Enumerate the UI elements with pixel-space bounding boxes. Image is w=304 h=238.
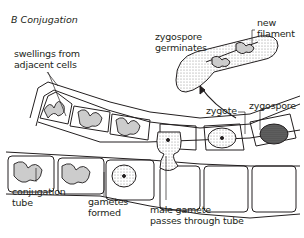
label-zygospore-germinates: zygospore germinates [155,31,207,53]
label-zygospore: zygospore [249,100,296,111]
male-gamete [157,132,181,171]
label-zygote: zygote [206,105,237,116]
label-male-gamete: male gamete passes through tube [150,204,244,226]
label-conjugation-tube: conjugation tube [12,186,66,208]
label-gametes-formed: gametes formed [88,196,128,218]
zygospore-cell [260,124,288,144]
label-swellings: swellings from adjacent cells [14,48,80,70]
label-new-filament: new filament [257,17,295,39]
